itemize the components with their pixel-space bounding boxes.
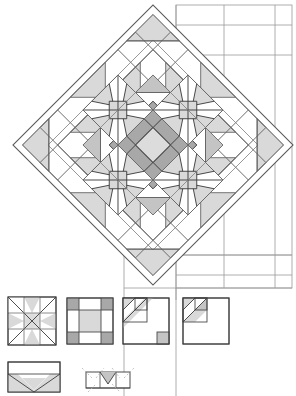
legend-block-row-1 [8,297,229,345]
quilt-pattern-page: Quilt Pattern Diagram quilt-layout-diagr… [0,0,296,396]
corner-triangle-block-a [123,298,169,344]
legend-block-row-2 [8,362,134,392]
medallion-quilt-diagram [13,5,293,285]
eight-point-star-block [8,297,56,345]
border-strip-unit [82,368,134,392]
corner-triangle-block-b [183,298,229,344]
quilt-diagram-canvas [0,0,296,396]
nine-patch-block [67,298,113,344]
setting-triangle-unit [8,362,60,392]
